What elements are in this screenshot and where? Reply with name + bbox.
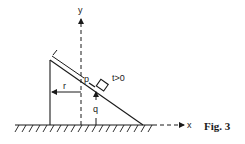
distance-r: r [52, 81, 81, 92]
y-axis: y [78, 5, 83, 125]
point-label: p [84, 74, 89, 84]
figure-caption: Fig. 3 [204, 120, 231, 132]
rail-end-tick [53, 50, 57, 55]
incline-rail [52, 56, 84, 78]
x-axis-label: x [187, 120, 192, 130]
sliding-block [96, 79, 108, 91]
y-axis-label: y [78, 5, 83, 15]
height-q-label: q [93, 104, 98, 114]
time-condition-label: t>0 [112, 73, 125, 83]
x-axis: x [153, 120, 192, 130]
incline-diagram: x y p t>0 r q Fig. 3 [0, 0, 245, 144]
ground [15, 125, 153, 132]
height-q: q [93, 92, 98, 125]
ground-hatching [15, 125, 152, 132]
distance-r-label: r [63, 81, 66, 91]
block-motion-arrow [89, 83, 95, 87]
